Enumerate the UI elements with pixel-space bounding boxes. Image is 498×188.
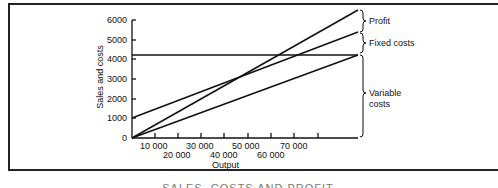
x-axis-label: Output [212,160,239,170]
y-tick-2000: 2000 [107,93,127,105]
x-tick-40000: 40 000 [210,150,238,160]
braces [360,10,366,137]
sales-line [132,10,358,138]
variable-costs-line2: costs [369,99,401,110]
y-tick-0: 0 [122,132,127,144]
profit-annotation: Profit [369,16,390,26]
y-tick-6000: 6000 [107,14,127,26]
y-tick-5000: 5000 [107,34,127,46]
y-tick-1000: 1000 [107,112,127,124]
x-tick-20000: 20 000 [163,150,191,160]
y-tick-4000: 4000 [107,53,127,65]
y-tick-3000: 3000 [107,73,127,85]
fixed-costs-annotation: Fixed costs [369,38,415,48]
variable-costs-annotation: Variable costs [369,88,401,110]
figure-caption: SALES, COSTS AND PROFIT [0,180,496,188]
x-tick-60000: 60 000 [257,150,285,160]
variable-costs-line [132,55,358,138]
variable-costs-line1: Variable [369,88,401,99]
y-axis-label: Sales and costs [95,37,105,117]
total-costs-line [132,32,358,118]
